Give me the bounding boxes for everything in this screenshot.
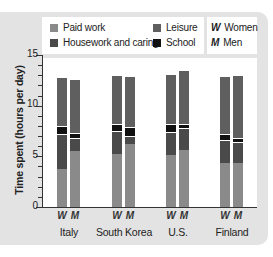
bar-segment-house	[125, 136, 135, 144]
y-tick-label: 15	[24, 48, 38, 59]
y-tick-label: 0	[24, 200, 38, 211]
leisure-swatch	[153, 24, 161, 32]
bar-segment-paid	[166, 155, 176, 207]
bar-segment-school	[112, 124, 122, 131]
y-tick	[38, 96, 42, 97]
bar-label-men: M	[125, 210, 135, 221]
legend-gender: WWomen MMen	[207, 17, 257, 54]
y-tick	[38, 126, 42, 127]
y-tick	[38, 146, 42, 147]
bar-segment-school	[220, 134, 230, 140]
bar-segment-paid	[179, 150, 189, 207]
bar-label-women: W	[112, 210, 122, 221]
bar-segment-school	[125, 127, 135, 136]
y-tick	[38, 166, 42, 167]
bar-segment-paid	[70, 151, 80, 207]
y-tick-label: 10	[24, 98, 38, 109]
legend-item-school: School	[153, 37, 195, 49]
legend-item-housework: Housework and caring	[50, 37, 159, 49]
legend-label: Housework and caring	[63, 37, 159, 48]
bar-segment-leisure	[233, 75, 243, 138]
bar-label-women: W	[57, 210, 67, 221]
bar-segment-paid	[57, 169, 67, 207]
legend-item-paid-work: Paid work	[50, 22, 105, 34]
y-tick	[38, 187, 42, 188]
category-label-finland: Finland	[197, 226, 267, 238]
bar-segment-school	[57, 126, 67, 134]
y-tick	[38, 75, 42, 76]
legend-label: Leisure	[166, 22, 197, 33]
legend-label: Men	[223, 37, 242, 48]
legend-item-women: WWomen	[211, 22, 258, 34]
bar-segment-leisure	[112, 75, 122, 124]
bar-segment-paid	[233, 163, 243, 207]
y-tick	[38, 65, 42, 66]
bar-segment-leisure	[166, 74, 176, 124]
y-tick	[38, 136, 42, 137]
bar-segment-leisure	[57, 77, 67, 126]
legend-label: School	[166, 37, 195, 48]
x-axis	[42, 207, 257, 208]
bar-segment-leisure	[70, 79, 80, 133]
bar-label-men: M	[70, 210, 80, 221]
y-tick	[38, 177, 42, 178]
bar-label-men: M	[233, 210, 243, 221]
bar-segment-paid	[220, 163, 230, 207]
y-tick-label: 5	[24, 149, 38, 160]
bar-segment-leisure	[220, 76, 230, 134]
bar-segment-paid	[112, 154, 122, 207]
bar-segment-paid	[125, 144, 135, 207]
bar-segment-house	[233, 142, 243, 163]
paid-work-swatch	[50, 24, 58, 32]
y-axis	[42, 55, 43, 208]
bar-segment-school	[233, 138, 243, 142]
bar-segment-leisure	[179, 70, 189, 124]
legend-key: M	[211, 37, 219, 48]
school-swatch	[153, 39, 161, 47]
bar-label-women: W	[220, 210, 230, 221]
y-tick	[38, 116, 42, 117]
y-tick	[38, 197, 42, 198]
bar-segment-house	[57, 134, 67, 168]
legend-item-leisure: Leisure	[153, 22, 197, 34]
bar-segment-house	[70, 138, 80, 151]
bar-segment-leisure	[125, 76, 135, 127]
legend-key: W	[211, 22, 220, 33]
bar-segment-house	[112, 131, 122, 154]
bar-segment-school	[70, 133, 80, 138]
y-tick	[38, 85, 42, 86]
bar-label-men: M	[179, 210, 189, 221]
bar-segment-school	[166, 124, 176, 132]
legend-label: Women	[224, 22, 257, 33]
housework-swatch	[50, 39, 58, 47]
y-axis-label: Time spent (hours per day)	[13, 65, 25, 195]
bar-segment-school	[179, 124, 189, 128]
bar-segment-house	[166, 132, 176, 155]
legend-label: Paid work	[63, 22, 105, 33]
legend: Paid work Housework and caring Leisure S…	[42, 17, 204, 54]
bar-label-women: W	[166, 210, 176, 221]
bar-segment-house	[220, 140, 230, 163]
bar-segment-house	[179, 128, 189, 150]
legend-item-men: MMen	[211, 37, 242, 49]
